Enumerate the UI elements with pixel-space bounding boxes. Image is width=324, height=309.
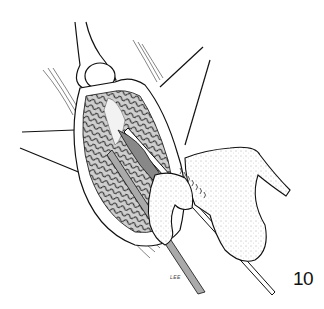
artist-signature: LEE — [170, 274, 181, 280]
hand-lower — [148, 173, 192, 245]
hand-upper — [185, 147, 290, 261]
surgical-illustration — [0, 0, 324, 309]
figure-number: 10 — [293, 268, 313, 290]
